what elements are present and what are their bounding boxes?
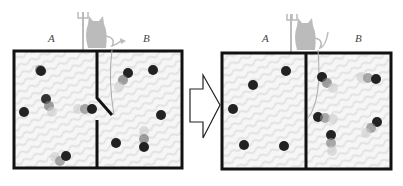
right-arrow-icon [190,75,220,138]
demon-icon [78,12,126,50]
maxwell-demon-diagram [0,0,403,186]
